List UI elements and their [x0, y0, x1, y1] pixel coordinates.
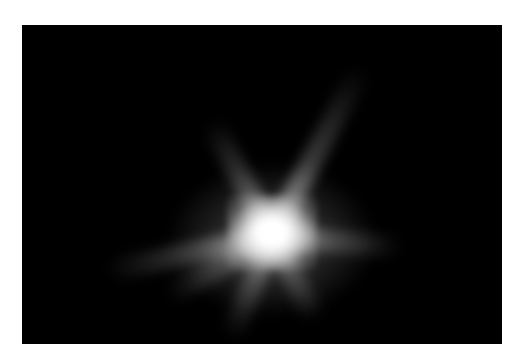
- space-image: [22, 25, 502, 344]
- bright-core: [227, 195, 317, 270]
